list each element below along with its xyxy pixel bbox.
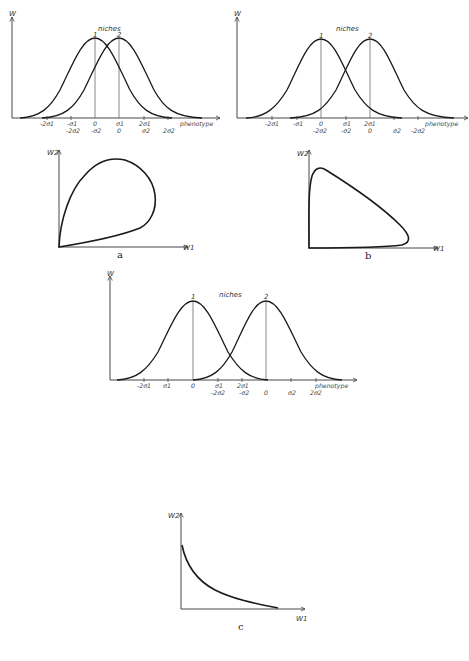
tick-label: -σ2 xyxy=(239,389,249,396)
tick-label: -2σ2 xyxy=(66,127,80,134)
w1-axis-label: W1 xyxy=(183,244,194,252)
tick-label: 2σ1 xyxy=(237,382,249,389)
peak-label-2: 2 xyxy=(264,293,269,301)
tick-label: -2σ2 xyxy=(211,389,225,396)
tick-label: σ2 xyxy=(393,127,401,134)
niche-1-curve xyxy=(117,301,268,380)
tick-label: -σ1 xyxy=(293,120,303,127)
tick-label: -σ2 xyxy=(91,127,101,134)
panel-c-fitness-set: W2 W1 c xyxy=(168,512,307,632)
tick-label: 2σ1 xyxy=(364,120,376,127)
fitness-set-curve xyxy=(309,168,409,248)
panel-a-fitness-set: W2 W1 a xyxy=(47,149,194,260)
tick-label: -2σ1 xyxy=(265,120,279,127)
tick-label: 0 xyxy=(93,120,97,127)
tick-label: -2σ1 xyxy=(40,120,54,127)
y-axis-label: W xyxy=(107,270,115,278)
niches-title: niches xyxy=(219,291,242,299)
tick-label: -2σ2 xyxy=(411,127,425,134)
tick-label: σ2 xyxy=(288,389,296,396)
niche-2-curve xyxy=(290,39,454,118)
tick-label: 2σ2 xyxy=(163,127,175,134)
tick-label: 0 xyxy=(319,120,323,127)
panel-c-niche-plot: W niches 1 2 -2σ1 σ1 0 σ1 2σ1 -2σ2 -σ2 0… xyxy=(107,270,357,396)
tick-label: -2σ2 xyxy=(313,127,327,134)
tick-label: σ1 xyxy=(343,120,351,127)
panel-label-c: c xyxy=(238,621,244,632)
w2-axis-label: W2 xyxy=(168,512,180,520)
panel-a-niche-plot: W niches 1 2 -2σ1 -σ1 0 σ1 2σ1 -2σ2 -σ2 … xyxy=(9,10,220,134)
x-axis-label: phenotype xyxy=(314,382,348,390)
tick-label: 0 xyxy=(117,127,121,134)
tick-label: -σ1 xyxy=(67,120,77,127)
tick-label: σ1 xyxy=(215,382,223,389)
niches-title: niches xyxy=(336,25,359,33)
x-axis-label: phenotype xyxy=(424,120,458,128)
w2-axis-label: W2 xyxy=(297,150,309,158)
tick-label: 0 xyxy=(264,389,268,396)
x-axis-label: phenotype xyxy=(179,120,213,128)
tick-label: σ1 xyxy=(116,120,124,127)
niche-2-curve xyxy=(193,301,342,380)
tick-label: 0 xyxy=(368,127,372,134)
niche-1-curve xyxy=(20,38,172,118)
panel-label-a: a xyxy=(117,249,123,260)
tick-label: 2σ1 xyxy=(139,120,151,127)
tick-label: -2σ1 xyxy=(137,382,151,389)
tick-label: -σ2 xyxy=(341,127,351,134)
fitness-set-curve xyxy=(59,159,155,247)
w1-axis-label: W1 xyxy=(433,245,444,253)
tick-label: σ2 xyxy=(142,127,150,134)
peak-label-1: 1 xyxy=(191,293,195,301)
figure-canvas: W niches 1 2 -2σ1 -σ1 0 σ1 2σ1 -2σ2 -σ2 … xyxy=(0,0,469,661)
tick-label: 2σ2 xyxy=(310,389,322,396)
tick-label: σ1 xyxy=(163,382,171,389)
w2-axis-label: W2 xyxy=(47,149,59,157)
y-axis-label: W xyxy=(234,10,242,18)
panel-b-fitness-set: W2 W1 b xyxy=(297,150,444,261)
panel-label-b: b xyxy=(365,250,371,261)
y-axis-label: W xyxy=(9,10,17,18)
fitness-set-curve xyxy=(182,545,278,608)
tick-label: 0 xyxy=(191,382,195,389)
w1-axis-label: W1 xyxy=(296,615,307,623)
panel-b-niche-plot: W niches 1 2 -2σ1 -σ1 0 σ1 2σ1 -2σ2 -σ2 … xyxy=(234,10,468,134)
